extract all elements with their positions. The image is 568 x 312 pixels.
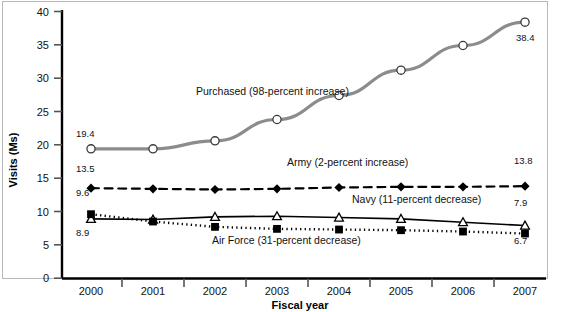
x-tick-label-2001: 2001	[141, 285, 165, 297]
annotation-airforce: Air Force (31-percent decrease)	[212, 234, 361, 246]
data-point-purchased-2003	[273, 115, 281, 123]
value-label-purchased-end: 38.4	[516, 32, 535, 43]
x-tick-label-2002: 2002	[203, 285, 227, 297]
value-label-purchased-start: 19.4	[76, 128, 95, 139]
value-label-navy-end: 7.9	[514, 197, 527, 208]
data-point-army-2004	[334, 183, 343, 192]
y-tick-label-15: 15	[37, 172, 49, 184]
y-tick-label-0: 0	[43, 272, 49, 284]
x-tick-label-2004: 2004	[327, 285, 351, 297]
y-tick-label-25: 25	[37, 106, 49, 118]
data-point-army-2002	[210, 185, 219, 194]
y-tick-label-35: 35	[37, 39, 49, 51]
data-point-air-force-2003	[273, 225, 281, 233]
data-point-purchased-2006	[459, 41, 467, 49]
y-tick-label-20: 20	[37, 139, 49, 151]
data-point-purchased-2005	[397, 66, 405, 74]
data-point-air-force-2004	[335, 226, 343, 234]
x-tick-label-2007: 2007	[513, 285, 537, 297]
data-point-purchased-2002	[211, 137, 219, 145]
chart-container: 40 35 30 25 20 15 10 5 0 Visits (Ms) 200…	[0, 0, 568, 312]
data-point-army-2005	[396, 182, 405, 191]
value-label-army-start: 13.5	[76, 163, 95, 174]
y-tick-label-30: 30	[37, 72, 49, 84]
x-tick-label-2000: 2000	[79, 285, 103, 297]
value-label-airforce-start: 9.6	[76, 187, 89, 198]
data-point-army-2007	[520, 182, 529, 191]
data-point-army-2006	[458, 182, 467, 191]
data-point-purchased-2000	[87, 145, 95, 153]
y-tick-label-5: 5	[43, 239, 49, 251]
data-point-air-force-2002	[211, 223, 219, 231]
data-point-air-force-2006	[459, 228, 467, 236]
value-label-army-end: 13.8	[514, 155, 533, 166]
x-tick-label-2003: 2003	[265, 285, 289, 297]
x-axis-title: Fiscal year	[272, 299, 330, 311]
data-point-air-force-2005	[397, 226, 405, 234]
data-point-purchased-2001	[149, 145, 157, 153]
data-point-air-force-2000	[87, 210, 95, 218]
line-chart: 40 35 30 25 20 15 10 5 0 Visits (Ms) 200…	[0, 0, 568, 312]
annotation-army: Army (2-percent increase)	[287, 156, 408, 168]
value-label-airforce-end: 6.7	[514, 235, 527, 246]
x-tick-label-2005: 2005	[389, 285, 413, 297]
y-tick-label-10: 10	[37, 206, 49, 218]
data-point-purchased-2007	[521, 18, 529, 26]
annotation-purchased: Purchased (98-percent increase)	[196, 85, 349, 97]
x-tick-label-2006: 2006	[451, 285, 475, 297]
value-label-navy-start: 8.9	[76, 227, 89, 238]
y-tick-label-40: 40	[37, 6, 49, 18]
data-point-air-force-2001	[149, 218, 157, 226]
y-axis-title: Visits (Ms)	[7, 132, 19, 187]
annotation-navy: Navy (11-percent decrease)	[352, 193, 481, 205]
x-tick-marks	[122, 279, 494, 288]
data-point-army-2001	[148, 184, 157, 193]
data-point-army-2003	[272, 184, 281, 193]
